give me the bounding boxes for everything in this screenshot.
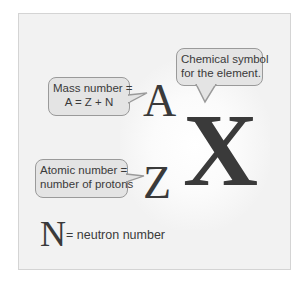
mass-number-line1: Mass number = bbox=[53, 81, 125, 95]
atomic-number-line1: Atomic number = bbox=[40, 163, 123, 177]
mass-number-line2: A = Z + N bbox=[53, 95, 125, 109]
neutron-symbol: N bbox=[40, 216, 66, 252]
chemical-symbol-callout: Chemical symbol for the element. bbox=[176, 48, 263, 86]
mass-number-callout: Mass number = A = Z + N bbox=[48, 77, 130, 116]
mass-number-symbol: A bbox=[143, 78, 176, 124]
chemical-symbol-line1: Chemical symbol bbox=[181, 52, 258, 66]
atomic-number-symbol: Z bbox=[143, 160, 171, 206]
element-symbol: X bbox=[183, 98, 258, 202]
neutron-number-label: = neutron number bbox=[66, 228, 165, 242]
chemical-symbol-line2: for the element. bbox=[181, 66, 258, 80]
atomic-number-callout: Atomic number = number of protons bbox=[35, 159, 128, 198]
atomic-number-line2: number of protons bbox=[40, 177, 123, 191]
